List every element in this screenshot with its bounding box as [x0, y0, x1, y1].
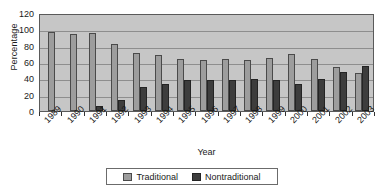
bar-group: [218, 15, 240, 111]
x-axis-title: Year: [39, 147, 374, 157]
bar: [333, 67, 340, 111]
bar: [311, 59, 318, 111]
bar-group: [329, 15, 351, 111]
legend-label: Traditional: [136, 172, 178, 182]
bar-group: [306, 15, 328, 111]
bar-group: [351, 15, 373, 111]
bar-group: [240, 15, 262, 111]
y-axis-tick-label: 20: [12, 92, 34, 101]
y-axis-tick-label: 120: [12, 10, 34, 19]
bar: [355, 73, 362, 111]
bar-group: [195, 15, 217, 111]
bar: [244, 60, 251, 111]
bar: [133, 53, 140, 111]
legend-label: Nontraditional: [205, 172, 261, 182]
y-axis-tick-label: 100: [12, 26, 34, 35]
bar-chart: Percentage 020406080100120 1989199019911…: [0, 0, 381, 192]
bar: [155, 55, 162, 111]
bar-group: [129, 15, 151, 111]
legend-swatch-icon: [192, 173, 201, 181]
y-axis-tick-label: 40: [12, 75, 34, 84]
bar-group: [284, 15, 306, 111]
bar-group: [173, 15, 195, 111]
bar-group: [151, 15, 173, 111]
bar-groups: [40, 15, 373, 111]
bar-group: [62, 15, 84, 111]
bar: [89, 33, 96, 111]
x-axis-tick-labels: 1989199019911992199319941995199619971998…: [39, 112, 374, 146]
y-axis-tick-label: 60: [12, 59, 34, 68]
bar: [177, 59, 184, 111]
y-axis-tick-labels: 020406080100120: [8, 0, 34, 192]
bar: [288, 54, 295, 111]
legend-item[interactable]: Traditional: [123, 172, 178, 182]
bar: [200, 60, 207, 111]
bar-group: [40, 15, 62, 111]
legend-item[interactable]: Nontraditional: [192, 172, 261, 182]
plot-area: [39, 14, 374, 112]
y-axis-tick-label: 80: [12, 43, 34, 52]
bar-group: [107, 15, 129, 111]
bar-group: [262, 15, 284, 111]
bar: [111, 44, 118, 111]
bar: [222, 59, 229, 111]
bar: [266, 58, 273, 111]
legend-swatch-icon: [123, 173, 132, 181]
bar: [48, 32, 55, 111]
y-axis-tick-label: 0: [12, 108, 34, 117]
bar: [70, 34, 77, 111]
bar-group: [84, 15, 106, 111]
chart-legend: TraditionalNontraditional: [106, 168, 278, 185]
